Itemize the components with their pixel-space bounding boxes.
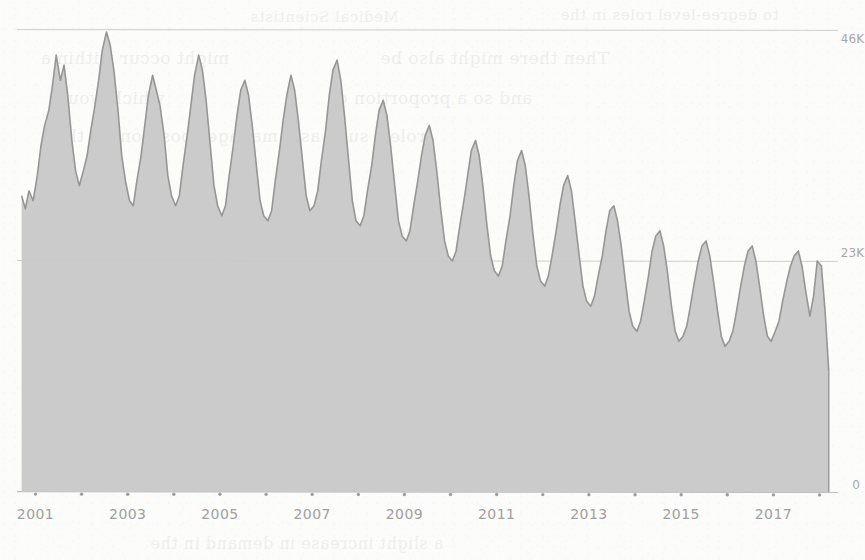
x-tick-label: 2015: [663, 506, 700, 522]
x-tick-label: 2003: [109, 506, 146, 522]
x-tick-mark: [449, 493, 452, 496]
x-tick-label: 2005: [201, 506, 238, 522]
x-tick-mark: [633, 493, 636, 496]
x-tick-label: 2017: [755, 506, 792, 522]
x-tick-mark: [541, 493, 544, 496]
x-tick-mark: [403, 493, 406, 496]
x-tick-mark: [587, 493, 590, 496]
series-area-fill: [22, 32, 829, 492]
x-tick-label: 2001: [17, 506, 54, 522]
x-tick-label: 2007: [294, 506, 331, 522]
x-tick-mark: [80, 492, 83, 495]
x-tick-mark: [310, 493, 313, 496]
y-axis-labels: 023K46K: [841, 32, 865, 492]
x-tick-mark: [495, 493, 498, 496]
x-tick-mark: [172, 493, 175, 496]
x-axis: 200120032005200720092011201320152017: [17, 492, 821, 522]
x-tick-mark: [679, 493, 682, 496]
gridline-46K: [17, 30, 838, 31]
y-tick-label: 0: [852, 478, 860, 492]
x-tick-mark: [126, 493, 129, 496]
y-tick-label: 23K: [841, 246, 865, 260]
series-medical-scientists: [22, 32, 829, 492]
x-tick-mark: [218, 493, 221, 496]
screenshot-root: Medical Scientiststo degree-level roles …: [0, 0, 865, 560]
x-tick-mark: [264, 493, 267, 496]
x-tick-mark: [818, 493, 821, 496]
x-tick-mark: [34, 492, 37, 495]
area-chart: 023K46K200120032005200720092011201320152…: [0, 0, 865, 560]
x-tick-mark: [772, 493, 775, 496]
x-tick-label: 2009: [386, 506, 423, 522]
x-tick-label: 2013: [570, 506, 607, 522]
chart-canvas: 023K46K200120032005200720092011201320152…: [0, 0, 865, 560]
x-tick-mark: [357, 493, 360, 496]
x-tick-label: 2011: [478, 506, 515, 522]
x-tick-mark: [726, 493, 729, 496]
y-tick-label: 46K: [841, 32, 865, 46]
